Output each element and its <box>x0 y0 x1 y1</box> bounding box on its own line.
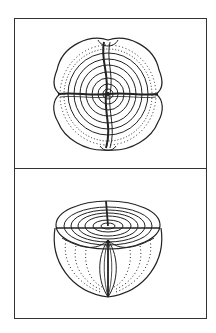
illustration <box>0 0 216 333</box>
bottom-drawing <box>54 201 162 297</box>
top-drawing <box>54 38 163 150</box>
